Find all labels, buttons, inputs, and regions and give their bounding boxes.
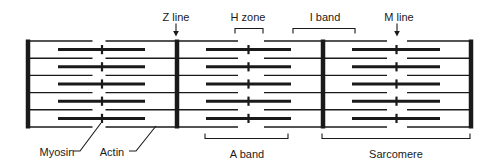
h-zone-label: H zone bbox=[231, 11, 266, 22]
m-line-arrow-head bbox=[394, 31, 400, 37]
z-line-arrow-head bbox=[173, 31, 179, 37]
sarcomere-label: Sarcomere bbox=[369, 149, 423, 160]
actin-label: Actin bbox=[100, 146, 124, 157]
a-band-bracket bbox=[205, 134, 288, 139]
myosin-label: Myosin bbox=[40, 146, 75, 157]
z-line-label: Z line bbox=[163, 11, 190, 22]
h-zone-bracket bbox=[235, 29, 263, 34]
i-band-bracket bbox=[293, 29, 355, 34]
i-band-label: I band bbox=[310, 11, 341, 22]
sarcomere-diagram: Z line H zone I band M line Myosin Actin… bbox=[0, 0, 499, 168]
a-band-label: A band bbox=[230, 149, 264, 160]
m-line-label: M line bbox=[384, 11, 413, 22]
sarcomere-bracket bbox=[322, 134, 470, 139]
actin-leader-line bbox=[129, 126, 156, 151]
diagram-canvas bbox=[0, 0, 499, 168]
